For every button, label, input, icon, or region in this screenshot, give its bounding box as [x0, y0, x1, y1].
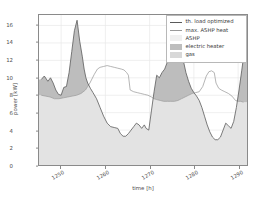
legend-line-swatch: [170, 27, 182, 34]
y-tick-label: 8: [0, 92, 13, 98]
legend-label: gas: [186, 52, 195, 57]
y-tick-label: 4: [0, 128, 13, 134]
x-tick-label: 1280: [183, 169, 200, 182]
x-axis-label: time [h]: [38, 185, 248, 191]
legend-item[interactable]: max. ASHP heat: [170, 26, 243, 34]
x-tick-label: 1250: [48, 169, 65, 182]
legend-patch-swatch: [170, 43, 182, 50]
chart-legend: th. load optimizedmax. ASHP heatASHPelec…: [166, 15, 247, 63]
y-tick-label: 12: [0, 57, 13, 63]
legend-label: ASHP: [186, 36, 200, 41]
x-tick-label: 1290: [227, 169, 244, 182]
x-tick-label: 1260: [93, 169, 110, 182]
x-tick-label: 1270: [138, 169, 155, 182]
legend-label: electric heater: [186, 44, 225, 49]
x-tick-mark: [105, 166, 106, 169]
legend-line-swatch: [170, 19, 182, 26]
legend-item[interactable]: th. load optimized: [170, 18, 243, 26]
y-tick-label: 10: [0, 75, 13, 81]
y-tick-label: 6: [0, 110, 13, 116]
x-tick-mark: [60, 166, 61, 169]
legend-patch-swatch: [170, 52, 182, 59]
legend-label: th. load optimized: [186, 19, 234, 24]
legend-item[interactable]: ASHP: [170, 34, 243, 42]
x-tick-mark: [150, 166, 151, 169]
x-tick-mark: [239, 166, 240, 169]
y-tick-label: 0: [0, 163, 13, 169]
legend-patch-swatch: [170, 35, 182, 42]
y-tick-label: 14: [0, 39, 13, 45]
y-tick-label: 16: [0, 22, 13, 28]
y-tick-label: 2: [0, 145, 13, 151]
legend-item[interactable]: electric heater: [170, 43, 243, 51]
legend-label: max. ASHP heat: [186, 28, 229, 33]
legend-item[interactable]: gas: [170, 51, 243, 59]
x-tick-mark: [194, 166, 195, 169]
chart-figure: power [kW] 0246810121416 125012601270128…: [0, 0, 263, 198]
